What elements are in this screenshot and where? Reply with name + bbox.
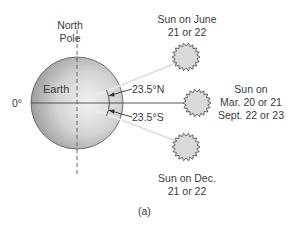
sun-equinox-label-line2: Mar. 20 or 21 — [211, 96, 291, 109]
sun-december-label-line2: 21 or 22 — [152, 185, 222, 198]
sun-june-icon — [172, 43, 200, 71]
north-tilt-label: 23.5°N — [132, 83, 164, 96]
figure-caption: (a) — [138, 205, 151, 218]
north-pole-label: North Pole — [50, 19, 90, 45]
sun-december-icon — [172, 133, 200, 161]
sun-equinox-label-line3: Sept. 22 or 23 — [211, 109, 291, 122]
zero-degrees-label: 0° — [12, 97, 22, 110]
sun-equinox-icon — [183, 89, 211, 117]
earth-label: Earth — [43, 83, 69, 96]
sun-december-label: Sun on Dec. 21 or 22 — [152, 172, 222, 198]
sun-june-label: Sun on June 21 or 22 — [152, 13, 222, 39]
sun-december-label-line1: Sun on Dec. — [152, 172, 222, 185]
north-pole-label-line2: Pole — [50, 32, 90, 45]
north-pole-label-line1: North — [50, 19, 90, 32]
sun-equinox-label-line1: Sun on — [211, 83, 291, 96]
south-tilt-label: 23.5°S — [132, 111, 164, 124]
sun-june-label-line1: Sun on June — [152, 13, 222, 26]
sun-june-label-line2: 21 or 22 — [152, 26, 222, 39]
sun-equinox-label: Sun on Mar. 20 or 21 Sept. 22 or 23 — [211, 83, 291, 122]
